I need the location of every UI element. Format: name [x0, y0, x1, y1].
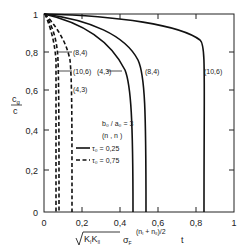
svg-text:0,2: 0,2 — [76, 218, 89, 228]
svg-text:(10,6): (10,6) — [73, 68, 91, 76]
svg-text:1: 1 — [33, 10, 38, 20]
curve-4-3-solid — [44, 14, 133, 212]
svg-text:τ₀ = 0,75: τ₀ = 0,75 — [92, 157, 119, 164]
curve-8-4-dashed — [45, 14, 59, 212]
svg-text:c: c — [13, 106, 18, 116]
legend: b₀ / a₀ = 3 (n , n ) τ₀ = 0,25 τ₀ = 0,75 — [76, 120, 133, 164]
svg-text:t: t — [181, 235, 184, 245]
annotation-labels: (8,4) (10,6) (4,3) (4,3) (8,4) (10,6) — [73, 49, 222, 94]
svg-text:0,6: 0,6 — [25, 86, 38, 96]
svg-text:0,4: 0,4 — [114, 218, 127, 228]
svg-text:0,8: 0,8 — [190, 218, 203, 228]
svg-text:0,2: 0,2 — [25, 166, 38, 176]
svg-text:0: 0 — [33, 208, 38, 218]
series-dashed — [45, 14, 72, 212]
svg-text:1: 1 — [231, 218, 236, 228]
y-axis-label: cg c — [11, 94, 22, 116]
svg-text:0,8: 0,8 — [25, 48, 38, 58]
x-axis-ticks — [82, 14, 196, 212]
curve-10-6-dashed — [45, 14, 56, 212]
svg-text:0: 0 — [41, 218, 46, 228]
chart: 0 0,2 0,4 0,6 0,8 1 0 0,2 0,4 0,6 0,8 1 … — [0, 0, 247, 252]
svg-text:(4,3): (4,3) — [73, 86, 87, 94]
svg-text:KIKII: KIKII — [84, 234, 100, 245]
svg-text:σF: σF — [123, 235, 132, 246]
svg-text:(8,4): (8,4) — [145, 68, 159, 76]
svg-text:0,4: 0,4 — [25, 126, 38, 136]
svg-text:(8,4): (8,4) — [73, 49, 87, 57]
x-axis-label: KIKII σF (nI + nII)/2 t — [76, 228, 184, 246]
series-solid — [44, 14, 204, 212]
svg-text:0,6: 0,6 — [152, 218, 165, 228]
svg-text:cg: cg — [12, 94, 20, 105]
y-tick-labels: 0 0,2 0,4 0,6 0,8 1 — [25, 10, 38, 218]
svg-text:(4,3): (4,3) — [97, 68, 111, 76]
svg-text:τ₀ = 0,25: τ₀ = 0,25 — [92, 145, 119, 152]
svg-text:(10,6): (10,6) — [204, 68, 222, 76]
svg-text:b₀ / a₀ = 3: b₀ / a₀ = 3 — [102, 120, 133, 127]
svg-text:(n , n ): (n , n ) — [102, 132, 122, 140]
svg-text:(nI + nII)/2: (nI + nII)/2 — [136, 228, 166, 236]
x-tick-labels: 0 0,2 0,4 0,6 0,8 1 — [41, 218, 236, 228]
